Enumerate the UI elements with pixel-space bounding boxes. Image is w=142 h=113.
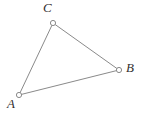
vertex-label-B: B <box>126 61 134 74</box>
vertex-label-C: C <box>43 1 52 14</box>
edge-AC <box>19 23 53 95</box>
vertex-marker-A <box>16 92 21 97</box>
triangle-graphic <box>0 0 142 113</box>
triangle-figure: C B A <box>0 0 142 113</box>
vertex-marker-C <box>50 20 55 25</box>
vertex-label-A: A <box>7 97 15 110</box>
edge-AB <box>19 70 119 95</box>
vertex-marker-B <box>116 67 121 72</box>
edge-CB <box>53 23 119 70</box>
